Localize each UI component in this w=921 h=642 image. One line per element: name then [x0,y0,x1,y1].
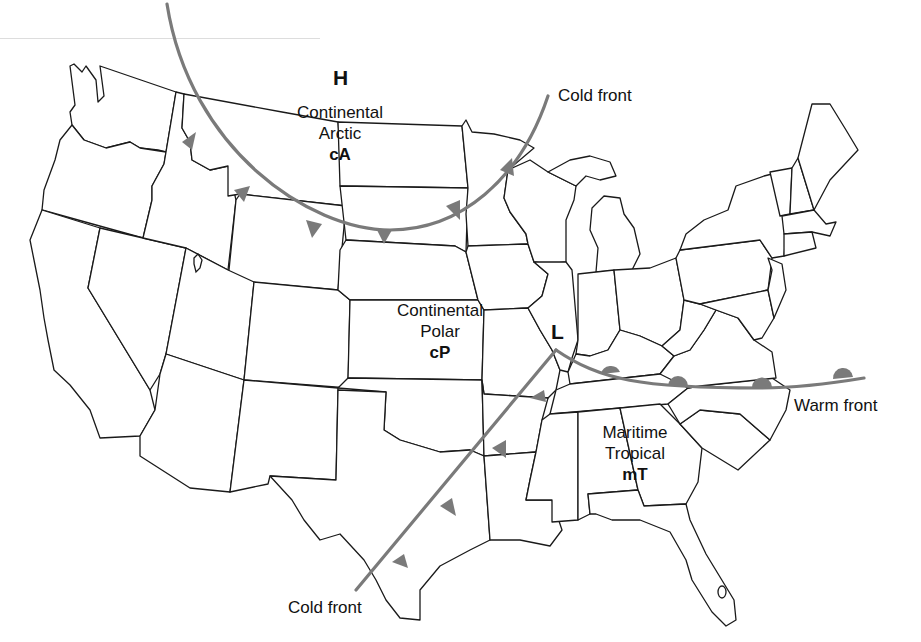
warm-front-label: Warm front [794,396,877,416]
low-pressure-symbol: L [551,320,564,344]
cold-front-north-label: Cold front [558,86,632,106]
air-mass-continental-arctic: Continental Arctic cA [285,102,395,165]
front-semicircle-icon [833,368,853,379]
state-michigan [590,196,640,272]
state-new-mexico [230,380,338,492]
air-mass-maritime-tropical: Maritime Tropical mT [590,422,680,485]
high-pressure-symbol: H [333,66,348,90]
state-washington [70,64,176,152]
air-mass-code: mT [590,464,680,485]
state-colorado [244,282,350,388]
air-mass-name-line1: Continental [385,300,495,321]
air-mass-name-line2: Arctic [285,123,395,144]
state-wyoming [228,194,346,290]
air-mass-name-line2: Polar [385,321,495,342]
cold-front-south-label: Cold front [288,598,362,618]
air-mass-continental-polar: Continental Polar cP [385,300,495,363]
air-mass-name-line1: Continental [285,102,395,123]
state-nebraska [338,240,478,300]
state-connecticut [784,232,816,256]
air-mass-name-line1: Maritime [590,422,680,443]
air-mass-name-line2: Tropical [590,443,680,464]
air-mass-code: cA [285,144,395,165]
state-florida [588,490,736,626]
air-mass-code: cP [385,342,495,363]
